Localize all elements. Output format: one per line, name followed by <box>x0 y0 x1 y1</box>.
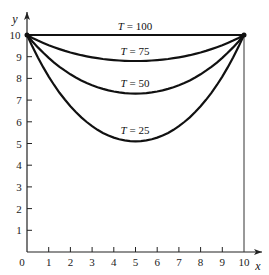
x-tick-label: 8 <box>198 256 204 268</box>
y-tick-label: 3 <box>16 181 22 193</box>
y-tick-label: 6 <box>16 116 22 128</box>
left-anchor-point <box>25 33 30 38</box>
x-tick-label: 6 <box>154 256 160 268</box>
y-tick-label: 7 <box>16 94 22 106</box>
x-tick-label: 4 <box>111 256 117 268</box>
x-tick-label: 5 <box>133 256 139 268</box>
right-anchor-point <box>242 33 247 38</box>
curve-label: T = 100 <box>118 20 153 32</box>
y-tick-label: 9 <box>16 51 22 63</box>
y-tick-label: 4 <box>16 159 22 171</box>
x-tick-label: 3 <box>89 256 95 268</box>
curve-label: T = 50 <box>121 77 150 89</box>
y-tick-label: 2 <box>16 203 22 215</box>
y-axis-label: y <box>11 12 18 26</box>
curve-label: T = 75 <box>121 45 150 57</box>
y-tick-label: 8 <box>16 72 22 84</box>
x-tick-label: 9 <box>220 256 226 268</box>
curve-labels: T = 100T = 75T = 50T = 25 <box>118 20 153 136</box>
x-tick-label: 7 <box>176 256 182 268</box>
x-tick-label: 1 <box>46 256 52 268</box>
catenary-chart: xy01234567891012345678910 T = 100T = 75T… <box>0 0 269 275</box>
y-tick-label: 10 <box>10 29 22 41</box>
x-tick-label: 10 <box>239 256 251 268</box>
x-tick-label: 2 <box>68 256 74 268</box>
y-tick-label: 1 <box>16 224 22 236</box>
y-tick-label: 5 <box>16 138 22 150</box>
origin-label: 0 <box>19 256 25 268</box>
x-axis-label: x <box>254 259 261 273</box>
curve-label: T = 25 <box>121 124 150 136</box>
